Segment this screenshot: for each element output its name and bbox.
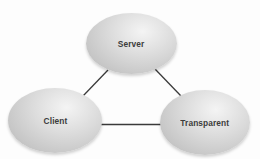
node-transparent-label: Transparent bbox=[181, 117, 230, 128]
node-server-label: Server bbox=[118, 38, 145, 49]
node-server: Server bbox=[86, 13, 177, 74]
edge-server-transparent bbox=[155, 69, 181, 96]
diagram-canvas: Server Client Transparent bbox=[0, 0, 260, 159]
node-client-label: Client bbox=[43, 115, 67, 126]
node-client: Client bbox=[8, 88, 102, 153]
node-transparent: Transparent bbox=[160, 90, 250, 155]
edge-server-client bbox=[83, 70, 108, 96]
